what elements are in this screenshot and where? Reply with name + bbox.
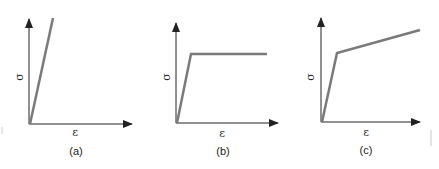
panel-c: σ ε (c) — [304, 18, 420, 156]
y-axis-label: σ — [13, 73, 26, 81]
stress-strain-diagrams: σ ε (a) σ ε (b) σ ε (c) — [0, 0, 439, 169]
y-axis-label: σ — [160, 73, 173, 81]
x-axis-label: ε — [363, 126, 369, 139]
y-axis-label: σ — [304, 73, 317, 81]
stress-strain-curve — [322, 30, 420, 122]
x-axis-label: ε — [72, 126, 78, 139]
stress-strain-curve — [30, 18, 53, 124]
panel-a: σ ε (a) — [13, 18, 132, 157]
x-axis-label: ε — [219, 127, 225, 140]
stress-strain-curve — [177, 54, 267, 123]
panel-caption: (c) — [360, 144, 373, 156]
panel-caption: (b) — [216, 145, 229, 157]
panel-b: σ ε (b) — [160, 23, 278, 157]
panel-caption: (a) — [69, 145, 82, 157]
